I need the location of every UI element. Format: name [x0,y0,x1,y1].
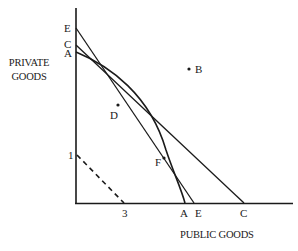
y-label-E: E [64,23,71,34]
y-axis-title-line2: GOODS [4,70,54,84]
y-label-1: 1 [68,150,74,161]
x-label-3: 3 [122,208,128,219]
x-label-A: A [180,208,188,219]
y-axis-title: PRIVATE GOODS [4,56,54,84]
dashed-line-1-3 [77,155,124,203]
point-label-F: F [155,157,161,168]
y-label-A: A [64,48,72,59]
point-D [116,103,119,106]
y-axis-title-line1: PRIVATE [4,56,54,70]
point-B [187,67,190,70]
line-CC [76,45,244,203]
curve-AA [76,52,185,203]
x-label-C: C [240,208,247,219]
point-label-B: B [195,64,202,75]
x-label-E: E [195,208,202,219]
x-axis-title: PUBLIC GOODS [180,228,254,242]
diagram-canvas [0,0,298,251]
point-F [162,156,165,159]
point-label-D: D [110,110,118,121]
